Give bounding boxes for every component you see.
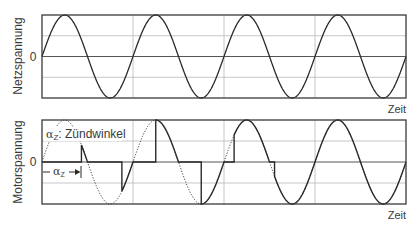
bottom-zero-label: 0 — [30, 155, 37, 169]
top-panel: Netzspannung 0 Zeit — [11, 15, 406, 115]
top-xlabel: Zeit — [388, 103, 406, 115]
arrow-label: αZ — [53, 165, 65, 178]
chart-canvas: Netzspannung 0 Zeit αZ: Zündwinkel αZ Mo… — [0, 0, 419, 231]
bottom-panel: αZ: Zündwinkel αZ Motorspannung 0 Zeit — [11, 120, 406, 221]
arrow-head-icon — [75, 169, 81, 175]
top-ylabel: Netzspannung — [11, 17, 25, 94]
legend-text: : Zündwinkel — [58, 127, 125, 141]
bottom-ylabel: Motorspannung — [11, 120, 25, 203]
firing-angle-arrow: αZ — [43, 165, 81, 178]
top-zero-label: 0 — [30, 50, 37, 64]
firing-angle-legend: αZ: Zündwinkel — [46, 127, 126, 142]
bottom-xlabel: Zeit — [388, 209, 406, 221]
arrow-alpha-sub: Z — [60, 171, 65, 178]
